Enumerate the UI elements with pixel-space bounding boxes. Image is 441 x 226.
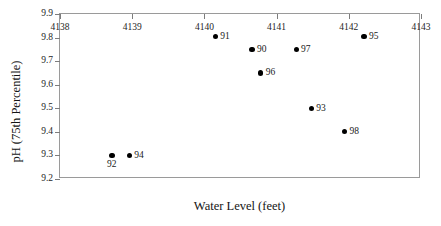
x-tick-label: 4143 [412,23,431,33]
data-point-marker [258,70,263,75]
data-point-label: 93 [316,104,326,114]
x-tick-label: 4138 [51,23,70,33]
x-tick-label: 4140 [195,23,214,33]
y-tick-mark [55,85,60,86]
y-tick-label: 9.7 [41,56,53,66]
data-point-label: 92 [107,160,117,170]
y-tick-mark [55,155,60,156]
data-point-marker [361,34,366,39]
data-point-label: 96 [266,68,276,78]
y-tick-mark [55,108,60,109]
scatter-chart: 9.29.39.49.59.69.79.89.9 413841394140414… [0,0,441,226]
x-tick-label: 4142 [339,23,358,33]
data-point-marker [342,129,347,134]
data-point-marker [249,47,254,52]
data-point-marker [213,34,218,39]
y-tick-label: 9.4 [41,127,53,137]
y-tick-label: 9.5 [41,104,53,114]
y-tick-label: 9.2 [41,174,53,184]
x-tick-mark [204,14,205,19]
data-point-label: 91 [220,32,230,42]
data-point-label: 95 [369,32,379,42]
y-tick-label: 9.3 [41,151,53,161]
data-point-marker [309,106,314,111]
x-tick-mark [132,14,133,19]
x-axis-title: Water Level (feet) [59,200,420,213]
y-tick-mark [55,132,60,133]
data-point-label: 98 [349,127,359,137]
y-tick-label: 9.6 [41,80,53,90]
plot-area: 9.29.39.49.59.69.79.89.9 413841394140414… [59,13,420,178]
x-tick-label: 4141 [267,23,286,33]
data-point-marker [294,47,299,52]
x-tick-mark [277,14,278,19]
x-tick-mark [349,14,350,19]
x-tick-mark [421,14,422,19]
y-tick-mark [55,38,60,39]
y-tick-label: 9.8 [41,33,53,43]
x-tick-label: 4139 [123,23,142,33]
y-axis-title: pH (75th Percentile) [7,29,25,194]
x-tick-mark [60,14,61,19]
data-point-label: 97 [301,45,311,55]
data-point-marker [109,153,114,158]
y-tick-mark [55,179,60,180]
data-point-label: 94 [134,151,144,161]
y-tick-label: 9.9 [41,9,53,19]
data-point-label: 90 [257,45,267,55]
y-tick-mark [55,61,60,62]
data-point-marker [127,153,132,158]
